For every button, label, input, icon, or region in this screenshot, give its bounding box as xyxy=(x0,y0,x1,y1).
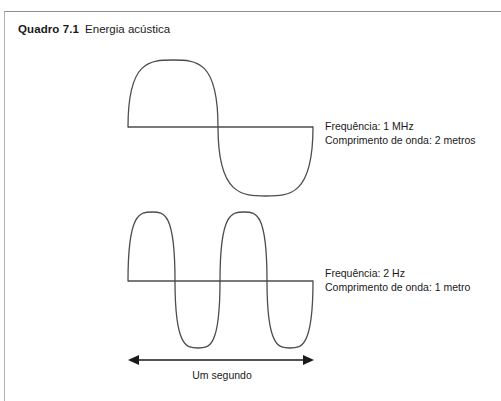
wave-1-frequency-label: Frequência: 1 MHz xyxy=(325,120,476,134)
wave-2-wavelength-label: Comprimento de onda: 1 metro xyxy=(325,281,470,295)
annotation-wave-2: Frequência: 2 Hz Comprimento de onda: 1 … xyxy=(325,267,470,294)
figure-box xyxy=(4,11,501,401)
caption-title: Energia acústica xyxy=(85,23,170,35)
annotation-wave-1: Frequência: 1 MHz Comprimento de onda: 2… xyxy=(325,120,476,147)
wave-1-wavelength-label: Comprimento de onda: 2 metros xyxy=(325,134,476,148)
wave-2-frequency-label: Frequência: 2 Hz xyxy=(325,267,470,281)
duration-caption: Um segundo xyxy=(130,369,314,382)
caption-number: Quadro 7.1 xyxy=(18,23,79,35)
figure-caption: Quadro 7.1Energia acústica xyxy=(18,22,170,36)
